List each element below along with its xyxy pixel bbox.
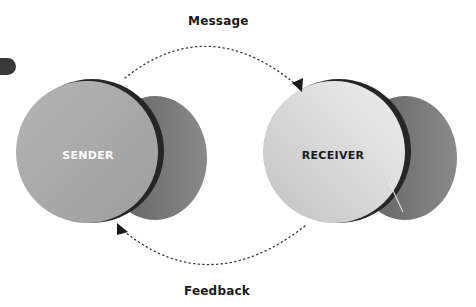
message-arrow-path [125,46,300,88]
partial-pill-shape [0,58,16,75]
communication-diagram: Message Feedback SENDER RECEIVER [0,0,476,307]
receiver-label: RECEIVER [302,149,365,162]
feedback-arrow-path [125,226,305,265]
sender-label: SENDER [62,149,114,162]
message-label: Message [188,14,249,28]
feedback-arrowhead-icon [117,223,128,235]
feedback-label: Feedback [184,284,250,298]
message-arrowhead-icon [292,78,303,92]
